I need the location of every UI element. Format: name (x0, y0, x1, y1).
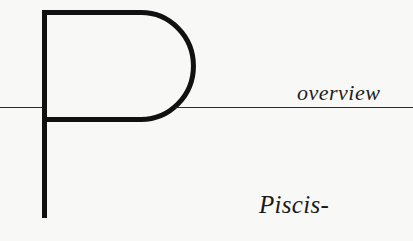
drop-cap-bowl (45, 13, 194, 120)
drop-cap-letter-p (0, 0, 413, 241)
horizontal-rule-left (0, 107, 42, 108)
drop-cap-stem (42, 10, 47, 218)
horizontal-rule-right (175, 107, 413, 108)
section-label: overview (297, 80, 380, 106)
heading-fragment: Piscis- (259, 191, 329, 219)
